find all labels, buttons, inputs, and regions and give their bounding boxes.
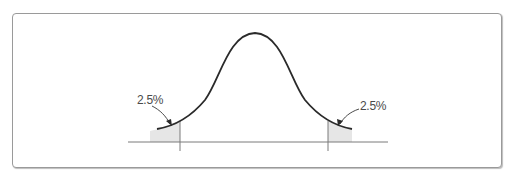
normal-distribution-diagram: 2.5% 2.5% bbox=[0, 0, 514, 180]
right-tail-label: 2.5% bbox=[360, 99, 387, 113]
right-tail-shade bbox=[328, 121, 352, 142]
bell-curve bbox=[157, 33, 352, 129]
left-arrowhead-icon bbox=[166, 119, 172, 126]
left-tail-shade bbox=[150, 122, 180, 142]
left-tail-label: 2.5% bbox=[137, 93, 164, 107]
right-annotation-arrow bbox=[340, 109, 359, 124]
